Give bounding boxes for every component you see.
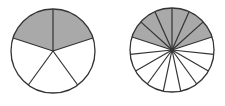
center-point	[52, 50, 54, 52]
center-point	[170, 48, 174, 52]
fraction-circle-fifths	[11, 9, 95, 93]
slice-divider	[28, 51, 53, 85]
slice-divider	[53, 51, 78, 85]
fraction-circle-fifteenths	[130, 8, 214, 92]
fraction-diagram	[0, 0, 225, 106]
